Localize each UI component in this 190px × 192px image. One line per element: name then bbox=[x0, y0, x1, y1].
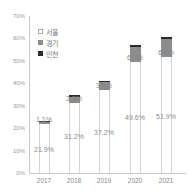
legend-item-gyeonggi: 경기 bbox=[38, 37, 58, 48]
legend-label: 인천 bbox=[46, 49, 58, 59]
y-tick-label: 20% bbox=[0, 125, 25, 131]
data-label-seoul: 31.2% bbox=[64, 133, 84, 140]
legend-label: 서울 bbox=[46, 27, 58, 37]
bar-2021 bbox=[161, 37, 172, 173]
data-label-seoul: 49.6% bbox=[125, 114, 145, 121]
data-label-gyeonggi: 6.5% bbox=[127, 54, 143, 61]
x-tick-label: 2019 bbox=[97, 177, 111, 184]
y-axis bbox=[29, 16, 30, 173]
stacked-bar-chart: 서울 경기 인천 0%10%20%30%40%50%60%70%21.9%1.1… bbox=[0, 0, 190, 192]
y-tick-label: 70% bbox=[0, 13, 25, 19]
bar-2019 bbox=[99, 81, 110, 173]
bar-2020 bbox=[130, 45, 141, 173]
x-tick-label: 2017 bbox=[37, 177, 51, 184]
data-label-gyeonggi: 3.4% bbox=[96, 82, 112, 89]
legend-swatch bbox=[38, 40, 43, 45]
legend-item-seoul: 서울 bbox=[38, 26, 58, 37]
y-tick-label: 50% bbox=[0, 58, 25, 64]
data-label-gyeonggi: 2.9% bbox=[66, 95, 82, 102]
x-tick-label: 2020 bbox=[128, 177, 142, 184]
y-tick-label: 0% bbox=[0, 170, 25, 176]
x-tick-label: 2018 bbox=[67, 177, 81, 184]
legend-swatch bbox=[38, 29, 43, 34]
legend-label: 경기 bbox=[46, 38, 58, 48]
legend-swatch bbox=[38, 51, 43, 56]
bar-segment-incheon bbox=[130, 45, 141, 47]
data-label-gyeonggi: 1.1% bbox=[36, 116, 52, 123]
bar-segment-incheon bbox=[161, 37, 172, 39]
y-tick-label: 40% bbox=[0, 80, 25, 86]
legend: 서울 경기 인천 bbox=[38, 26, 58, 59]
data-label-seoul: 37.2% bbox=[94, 129, 114, 136]
x-tick-label: 2021 bbox=[159, 177, 173, 184]
data-label-seoul: 21.9% bbox=[34, 146, 54, 153]
y-tick-label: 60% bbox=[0, 35, 25, 41]
y-tick-label: 10% bbox=[0, 148, 25, 154]
x-axis bbox=[29, 173, 186, 174]
legend-item-incheon: 인천 bbox=[38, 48, 58, 59]
data-label-seoul: 51.9% bbox=[156, 113, 176, 120]
y-tick-label: 30% bbox=[0, 103, 25, 109]
data-label-gyeonggi: 6.8% bbox=[158, 49, 174, 56]
